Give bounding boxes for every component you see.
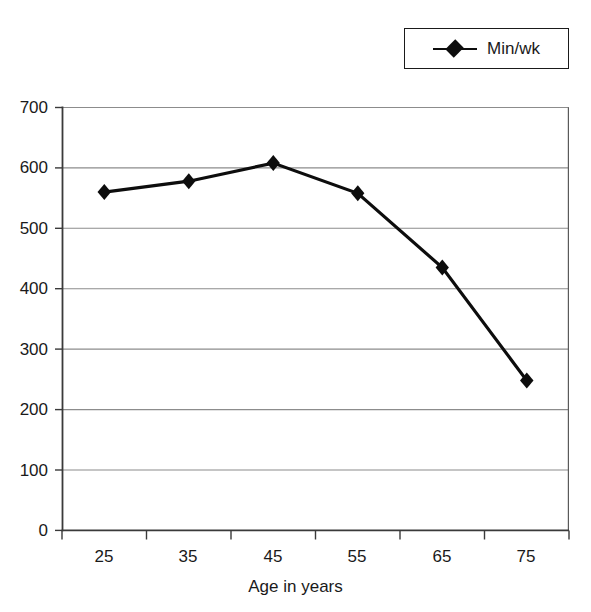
y-tick-label-300: 300 xyxy=(0,341,48,358)
x-tick-label-45: 45 xyxy=(243,548,303,565)
x-tick-label-35: 35 xyxy=(158,548,218,565)
y-tick-label-700: 700 xyxy=(0,99,48,116)
y-axis-ticks xyxy=(55,108,62,531)
x-tick-label-55: 55 xyxy=(327,548,387,565)
x-tick-label-65: 65 xyxy=(412,548,472,565)
y-tick-label-0: 0 xyxy=(0,522,48,539)
y-tick-label-100: 100 xyxy=(0,462,48,479)
data-point-markers xyxy=(98,155,534,389)
x-tick-label-75: 75 xyxy=(496,548,556,565)
x-axis-title: Age in years xyxy=(0,578,591,595)
gridlines xyxy=(62,108,569,471)
x-tick-label-25: 25 xyxy=(74,548,134,565)
y-tick-label-200: 200 xyxy=(0,401,48,418)
series-min-wk xyxy=(98,155,534,389)
line-chart: Min/wk xyxy=(0,0,591,612)
y-tick-label-500: 500 xyxy=(0,220,48,237)
y-tick-label-400: 400 xyxy=(0,280,48,297)
y-tick-label-600: 600 xyxy=(0,159,48,176)
plot-area xyxy=(0,0,591,612)
x-axis-ticks xyxy=(62,530,569,539)
